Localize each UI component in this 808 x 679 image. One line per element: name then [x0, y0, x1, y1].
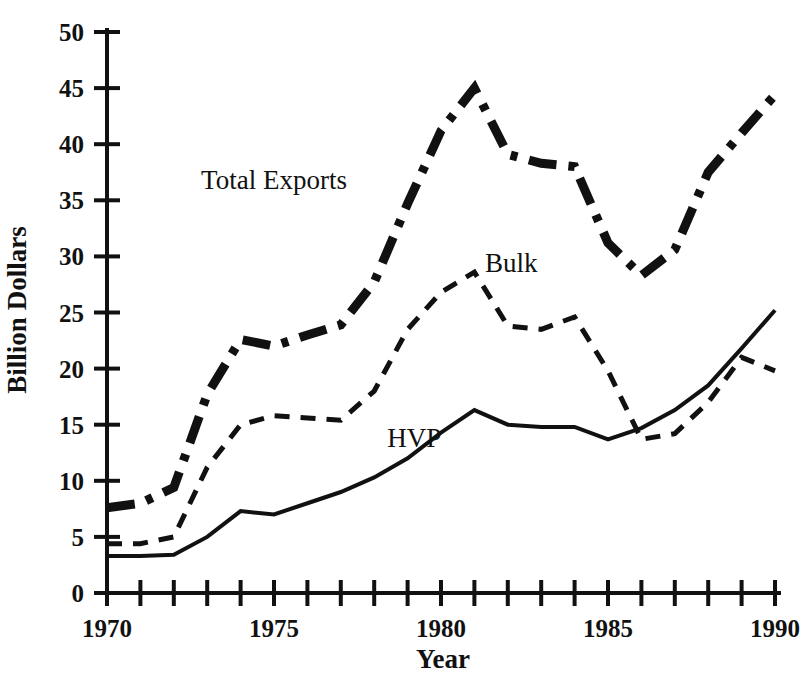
y-tick-label: 45 [59, 75, 84, 102]
series-label-total-exports: Total Exports [201, 165, 347, 195]
x-tick-label: 1980 [416, 615, 466, 642]
x-axis-tick-labels: 19701975198019851990 [82, 615, 800, 642]
series-lines [107, 88, 775, 556]
y-tick-label: 50 [59, 19, 84, 46]
series-annotations: Total ExportsBulkHVP [201, 165, 538, 453]
series-label-bulk: Bulk [485, 248, 538, 278]
y-tick-label: 10 [59, 468, 84, 495]
y-tick-label: 35 [59, 187, 84, 214]
y-tick-label: 5 [72, 524, 85, 551]
y-axis-tick-labels: 05101520253035404550 [59, 19, 84, 607]
series-label-hvp: HVP [387, 423, 441, 453]
x-tick-label: 1970 [82, 615, 132, 642]
x-tick-label: 1990 [750, 615, 800, 642]
y-tick-label: 25 [59, 300, 84, 327]
y-tick-label: 0 [72, 580, 85, 607]
y-axis-title: Billion Dollars [2, 226, 32, 393]
y-tick-label: 30 [59, 243, 84, 270]
y-tick-label: 15 [59, 412, 84, 439]
y-tick-label: 40 [59, 131, 84, 158]
chart-figure: 05101520253035404550 1970197519801985199… [0, 0, 808, 679]
x-tick-label: 1985 [583, 615, 633, 642]
x-tick-label: 1975 [249, 615, 299, 642]
y-tick-label: 20 [59, 356, 84, 383]
x-axis-title: Year [416, 644, 470, 674]
line-chart: 05101520253035404550 1970197519801985199… [0, 0, 808, 679]
